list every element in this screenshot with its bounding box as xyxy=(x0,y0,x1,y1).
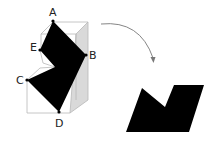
result-shape xyxy=(126,85,204,132)
folding-diagram: A B C D E xyxy=(0,0,214,145)
label-e: E xyxy=(30,41,37,54)
arrowhead-icon xyxy=(151,57,156,63)
label-a: A xyxy=(49,6,57,19)
label-c: C xyxy=(16,74,24,87)
label-b: B xyxy=(89,49,97,62)
label-d: D xyxy=(55,117,63,130)
vertex-a xyxy=(51,19,54,22)
vertex-d xyxy=(57,110,60,113)
vertex-c xyxy=(25,78,28,81)
arrow-shaft xyxy=(101,24,153,58)
vertex-e xyxy=(38,48,41,51)
curved-arrow xyxy=(101,24,156,63)
vertex-b xyxy=(84,53,87,56)
